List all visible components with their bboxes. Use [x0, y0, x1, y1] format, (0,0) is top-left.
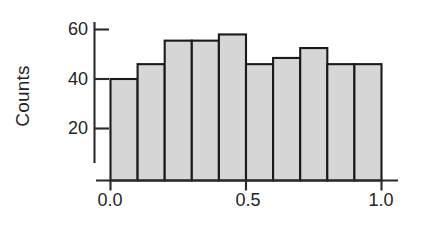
histogram-bar [138, 64, 165, 180]
histogram-bar [192, 41, 219, 181]
histogram-bar [300, 48, 327, 180]
histogram-bar [354, 64, 381, 180]
histogram-bar [246, 64, 273, 180]
chart-canvas [0, 0, 425, 234]
histogram-bar [111, 79, 138, 181]
chart-figure: Counts 60 40 20 0.0 0.5 1.0 [0, 0, 425, 234]
histogram-bar [165, 41, 192, 181]
histogram-bars [111, 34, 382, 180]
histogram-bar [273, 58, 300, 181]
histogram-plot-area: Counts 60 40 20 0.0 0.5 1.0 [0, 0, 425, 234]
histogram-bar [327, 64, 354, 180]
histogram-bar [219, 34, 246, 180]
